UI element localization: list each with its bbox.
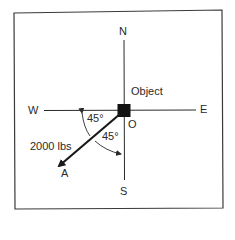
angle-arc-south (95, 141, 121, 154)
force-magnitude-label: 2000 lbs (30, 141, 72, 152)
angle-label-south: 45° (102, 131, 119, 142)
angle-label-west: 45° (87, 113, 104, 124)
north-label: N (119, 26, 127, 37)
south-label: S (120, 186, 127, 197)
origin-label: O (128, 119, 137, 130)
east-label: E (200, 104, 207, 115)
vector-end-label: A (61, 168, 68, 179)
west-label: W (28, 105, 38, 116)
object-label: Object (131, 86, 163, 97)
